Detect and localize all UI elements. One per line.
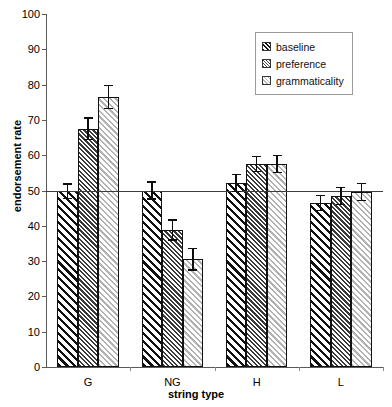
legend-label: grammaticality — [276, 75, 344, 87]
error-bar-H-baseline — [232, 174, 241, 192]
y-tick-label: 90 — [28, 43, 40, 55]
y-axis-label: endorsement rate — [11, 91, 23, 241]
legend-swatch-icon-baseline — [262, 42, 271, 51]
y-tick-label: 100 — [22, 8, 40, 20]
legend-swatch-icon-preference — [262, 59, 271, 68]
legend-item-grammaticality[interactable]: grammaticality — [262, 72, 344, 89]
y-tick-mark — [42, 85, 46, 86]
error-bar-G-preference — [84, 117, 93, 140]
y-tick-mark — [42, 261, 46, 262]
y-tick-label: 50 — [28, 185, 40, 197]
bar-G-preference[interactable] — [78, 129, 99, 367]
x-axis-label: string type — [0, 388, 392, 400]
x-tick-label: H — [253, 376, 261, 388]
error-bar-G-grammaticality — [104, 85, 113, 110]
legend-swatch-icon-grammaticality — [262, 76, 271, 85]
x-tick-mark — [130, 367, 131, 371]
legend: baseline preference grammaticality — [255, 32, 353, 95]
x-tick-label: NG — [164, 376, 181, 388]
y-tick-mark — [42, 367, 46, 368]
legend-item-baseline[interactable]: baseline — [262, 38, 344, 55]
bar-L-preference[interactable] — [331, 196, 352, 367]
bar-L-grammaticality[interactable] — [351, 192, 372, 367]
bar-NG-preference[interactable] — [162, 230, 183, 367]
y-tick-label: 80 — [28, 79, 40, 91]
y-tick-label: 70 — [28, 114, 40, 126]
y-tick-mark — [42, 49, 46, 50]
y-tick-mark — [42, 226, 46, 227]
y-tick-mark — [42, 332, 46, 333]
y-tick-mark — [42, 14, 46, 15]
error-bar-G-baseline — [63, 183, 72, 199]
legend-label: preference — [276, 58, 326, 70]
bar-L-baseline[interactable] — [310, 203, 331, 367]
x-tick-label: G — [84, 376, 93, 388]
bar-NG-baseline[interactable] — [142, 191, 163, 368]
bar-NG-grammaticality[interactable] — [183, 259, 204, 367]
x-tick-mark — [383, 367, 384, 371]
x-tick-mark — [299, 367, 300, 371]
x-tick-mark — [215, 367, 216, 371]
error-bar-H-grammaticality — [273, 155, 282, 173]
reference-line-50 — [46, 191, 383, 192]
error-bar-NG-grammaticality — [188, 248, 197, 271]
y-tick-label: 40 — [28, 220, 40, 232]
bar-H-preference[interactable] — [246, 164, 267, 367]
y-tick-label: 30 — [28, 255, 40, 267]
y-tick-label: 60 — [28, 149, 40, 161]
error-bar-L-preference — [336, 187, 345, 205]
y-tick-label: 20 — [28, 290, 40, 302]
error-bar-H-preference — [252, 156, 261, 173]
y-tick-mark — [42, 120, 46, 121]
error-bar-L-baseline — [316, 195, 325, 211]
y-tick-label: 10 — [28, 326, 40, 338]
bar-H-grammaticality[interactable] — [267, 164, 288, 367]
y-tick-mark — [42, 155, 46, 156]
legend-label: baseline — [276, 41, 315, 53]
bar-H-baseline[interactable] — [226, 183, 247, 367]
x-tick-label: L — [338, 376, 344, 388]
error-bar-NG-preference — [168, 219, 177, 240]
y-tick-label: 0 — [34, 361, 40, 373]
bar-G-baseline[interactable] — [57, 191, 78, 367]
error-bar-L-grammaticality — [357, 183, 366, 201]
legend-item-preference[interactable]: preference — [262, 55, 344, 72]
y-tick-mark — [42, 296, 46, 297]
bar-G-grammaticality[interactable] — [98, 97, 119, 367]
bar-chart: endorsement rate string type 01020304050… — [0, 0, 392, 407]
error-bar-NG-baseline — [147, 181, 156, 199]
